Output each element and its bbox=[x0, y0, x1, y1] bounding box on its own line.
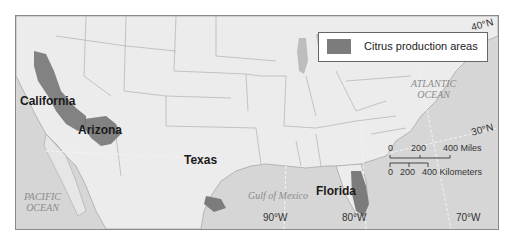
state-label-california: California bbox=[20, 94, 75, 108]
scale-bar: 0 200 400 Miles 0 200 400 Kilometers bbox=[388, 143, 488, 213]
legend-label: Citrus production areas bbox=[364, 40, 478, 52]
citrus-swatch bbox=[327, 39, 351, 54]
pacific-ocean-label: PACIFIC OCEAN bbox=[24, 191, 61, 213]
longitude-90w-label: 90°W bbox=[263, 212, 288, 223]
atlantic-line-1: ATLANTIC bbox=[411, 78, 456, 89]
scale-km-200: 200 bbox=[400, 167, 415, 177]
scale-miles-400: 400 Miles bbox=[443, 143, 482, 153]
pacific-line-1: PACIFIC bbox=[24, 191, 61, 202]
gulf-of-mexico-label: Gulf of Mexico bbox=[248, 190, 308, 201]
scale-km-0: 0 bbox=[388, 167, 393, 177]
scale-miles-200: 200 bbox=[411, 143, 426, 153]
pacific-line-2: OCEAN bbox=[24, 202, 61, 213]
longitude-70w-label: 70°W bbox=[456, 212, 481, 223]
scale-km-400: 400 Kilometers bbox=[422, 167, 482, 177]
state-label-arizona: Arizona bbox=[78, 123, 122, 137]
map-legend: Citrus production areas bbox=[318, 32, 488, 62]
citrus-area-texas bbox=[204, 196, 226, 212]
scale-miles-0: 0 bbox=[388, 143, 393, 153]
state-label-texas: Texas bbox=[184, 153, 217, 167]
longitude-80w-label: 80°W bbox=[342, 212, 367, 223]
atlantic-ocean-label: ATLANTIC OCEAN bbox=[411, 78, 456, 100]
state-label-florida: Florida bbox=[316, 184, 356, 198]
atlantic-line-2: OCEAN bbox=[411, 89, 456, 100]
